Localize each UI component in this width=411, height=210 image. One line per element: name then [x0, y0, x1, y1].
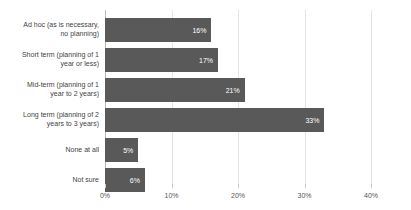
bar-value-label: 33%: [305, 117, 319, 124]
bar[interactable]: 17%: [105, 48, 218, 72]
bar-container: 5%: [105, 138, 138, 162]
x-tick-label: 0%: [100, 192, 110, 199]
x-tick-label: 10%: [164, 192, 178, 199]
bar-value-label: 16%: [192, 27, 206, 34]
bar[interactable]: 5%: [105, 138, 138, 162]
bar-value-label: 5%: [123, 147, 133, 154]
x-axis: 0%10%20%30%40%: [0, 188, 411, 210]
x-tick-mark: [172, 184, 173, 188]
bar-row: None at all5%: [0, 138, 411, 162]
bar-row: Ad hoc (as is necessary, no planning)16%: [0, 18, 411, 42]
bar[interactable]: 21%: [105, 78, 245, 102]
bar-row: Mid-term (planning of 1 year to 2 years)…: [0, 78, 411, 102]
x-tick-mark: [305, 184, 306, 188]
bar-container: 17%: [105, 48, 218, 72]
bar-container: 16%: [105, 18, 211, 42]
x-tick-label: 30%: [297, 192, 311, 199]
bar-value-label: 17%: [199, 57, 213, 64]
bar[interactable]: 16%: [105, 18, 211, 42]
bar[interactable]: 33%: [105, 108, 324, 132]
category-label: Ad hoc (as is necessary, no planning): [4, 21, 99, 38]
bar-row: Short term (planning of 1 year or less)1…: [0, 48, 411, 72]
category-label: Not sure: [4, 176, 99, 185]
category-label: Short term (planning of 1 year or less): [4, 51, 99, 68]
bar-rows: Ad hoc (as is necessary, no planning)16%…: [0, 0, 411, 185]
x-tick-mark: [105, 184, 106, 188]
bar-value-label: 21%: [226, 87, 240, 94]
category-label: Long term (planning of 2 years to 3 year…: [4, 111, 99, 128]
x-tick-label: 20%: [231, 192, 245, 199]
x-tick-mark: [371, 184, 372, 188]
x-tick-mark: [238, 184, 239, 188]
bar-chart: Ad hoc (as is necessary, no planning)16%…: [0, 0, 411, 210]
x-tick-label: 40%: [364, 192, 378, 199]
category-label: Mid-term (planning of 1 year to 2 years): [4, 81, 99, 98]
bar-container: 21%: [105, 78, 245, 102]
bar-container: 33%: [105, 108, 324, 132]
bar-value-label: 6%: [130, 177, 140, 184]
category-label: None at all: [4, 146, 99, 155]
bar-row: Long term (planning of 2 years to 3 year…: [0, 108, 411, 132]
